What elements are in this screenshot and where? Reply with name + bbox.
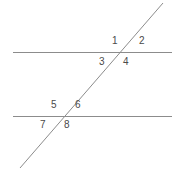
angle-label-2: 2 (139, 36, 145, 46)
angle-label-7: 7 (40, 120, 46, 130)
angle-label-6: 6 (75, 100, 81, 110)
angle-label-3: 3 (99, 57, 105, 67)
angle-label-1: 1 (112, 36, 118, 46)
geometry-diagram: 1 2 3 4 5 6 7 8 (0, 0, 181, 171)
transversal-line (20, 3, 163, 168)
angle-label-8: 8 (64, 120, 70, 130)
angle-label-4: 4 (123, 57, 129, 67)
angle-label-5: 5 (51, 100, 57, 110)
geometry-canvas (0, 0, 181, 171)
